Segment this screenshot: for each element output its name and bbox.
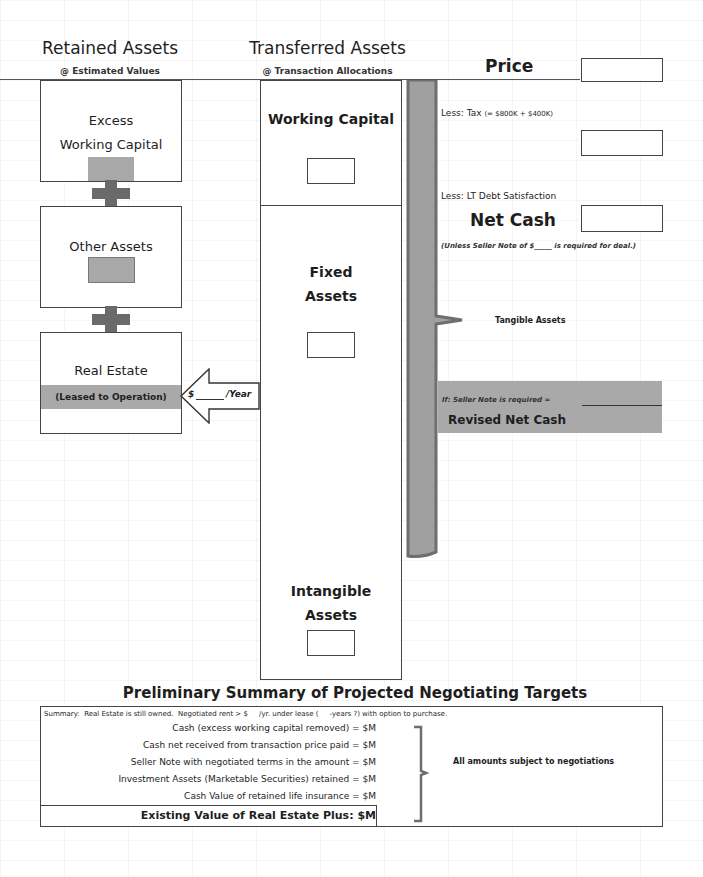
other-assets-value-field[interactable] <box>88 257 135 283</box>
intangible-assets-line1: Intangible <box>261 583 401 599</box>
retained-assets-subtitle: @ Estimated Values <box>40 66 180 76</box>
summary-intro: Summary: Real Estate is still owned. Neg… <box>44 710 447 718</box>
summary-line-seller-note: Seller Note with negotiated terms in the… <box>131 757 376 767</box>
price-label: Price <box>485 56 533 76</box>
fixed-assets-line2: Assets <box>261 288 401 304</box>
if-seller-note-label: If: Seller Note is required = <box>442 396 550 404</box>
transferred-assets-subtitle: @ Transaction Allocations <box>245 66 410 76</box>
all-amounts-note: All amounts subject to negotiations <box>453 757 614 766</box>
tax-value-field[interactable] <box>581 130 663 156</box>
summary-total: Existing Value of Real Estate Plus: $M <box>41 805 377 826</box>
summary-line-investment: Investment Assets (Marketable Securities… <box>118 774 376 784</box>
other-assets-label: Other Assets <box>41 239 181 254</box>
price-value-field[interactable] <box>581 58 663 82</box>
real-estate-box: Real Estate (Leased to Operation) <box>40 332 182 434</box>
excess-working-capital-box: Excess Working Capital <box>40 80 182 182</box>
revised-net-cash-band: If: Seller Note is required = Revised Ne… <box>438 381 662 433</box>
fixed-assets-box: Fixed Assets <box>260 205 402 557</box>
intangible-assets-line2: Assets <box>261 607 401 623</box>
lease-dollar: $ <box>188 389 194 399</box>
transferred-assets-title: Transferred Assets <box>245 38 410 58</box>
summary-box: Summary: Real Estate is still owned. Neg… <box>40 706 663 827</box>
less-tax-text: Less: Tax <box>441 108 482 118</box>
excess-wc-line2: Working Capital <box>41 137 181 152</box>
working-capital-value-field[interactable] <box>307 158 355 184</box>
working-capital-box: Working Capital <box>260 80 402 206</box>
working-capital-label: Working Capital <box>261 111 401 127</box>
summary-line-net-cash: Cash net received from transaction price… <box>143 740 376 750</box>
revised-net-cash-label: Revised Net Cash <box>448 413 566 427</box>
net-cash-label: Net Cash <box>470 210 556 230</box>
summary-title: Preliminary Summary of Projected Negotia… <box>40 684 670 702</box>
summary-lines: Cash (excess working capital removed) = … <box>41 721 376 805</box>
unless-seller-note-text: (Unless Seller Note of $_____ is require… <box>441 242 636 250</box>
less-tax-label: Less: Tax (= $800K + $400K) <box>441 108 553 118</box>
plus-icon <box>92 180 130 208</box>
real-estate-label: Real Estate <box>41 363 181 378</box>
less-debt-label: Less: LT Debt Satisfaction <box>441 191 556 201</box>
net-cash-value-field[interactable] <box>581 205 663 232</box>
plus-icon <box>92 306 130 334</box>
seller-note-amount-blank[interactable] <box>582 405 662 406</box>
intangible-assets-value-field[interactable] <box>307 630 355 656</box>
other-assets-box: Other Assets <box>40 206 182 308</box>
excess-wc-value-field[interactable] <box>88 157 134 181</box>
excess-wc-line1: Excess <box>41 113 181 128</box>
intangible-assets-box: Intangible Assets <box>260 555 402 680</box>
retained-assets-title: Retained Assets <box>40 38 180 58</box>
lease-per-year: /Year <box>226 389 251 399</box>
tangible-assets-label: Tangible Assets <box>495 316 565 325</box>
summary-line-life-insurance: Cash Value of retained life insurance = … <box>184 791 376 801</box>
summary-brace-icon <box>413 725 429 825</box>
summary-line-cash: Cash (excess working capital removed) = … <box>172 723 376 733</box>
lease-amount-blank[interactable] <box>196 399 224 400</box>
tax-formula: (= $800K + $400K) <box>484 110 553 118</box>
brace-icon <box>402 80 472 560</box>
fixed-assets-value-field[interactable] <box>307 332 355 358</box>
fixed-assets-line1: Fixed <box>261 264 401 280</box>
real-estate-leased-band: (Leased to Operation) <box>41 385 181 409</box>
